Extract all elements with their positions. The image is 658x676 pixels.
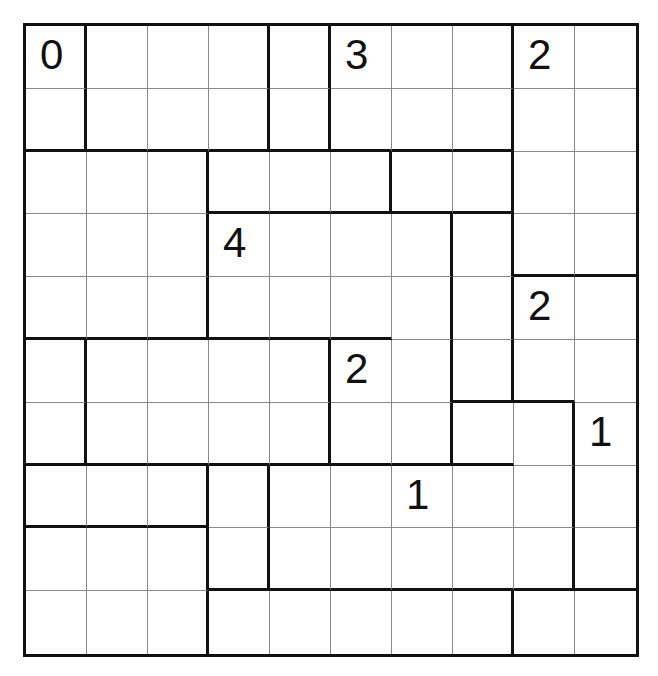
grid-cell[interactable] [270, 89, 331, 152]
grid-cell[interactable] [26, 403, 87, 466]
grid-cell[interactable]: 0 [26, 26, 87, 89]
grid-cell[interactable] [575, 26, 636, 89]
grid-cell[interactable] [514, 152, 575, 215]
grid-cell[interactable]: 1 [575, 403, 636, 466]
grid-cell[interactable] [148, 214, 209, 277]
grid-cell[interactable] [26, 528, 87, 591]
grid-cell[interactable] [331, 591, 392, 654]
grid-cell[interactable] [331, 466, 392, 529]
grid-cell[interactable] [575, 152, 636, 215]
grid-cell[interactable]: 3 [331, 26, 392, 89]
grid-cell[interactable] [87, 152, 148, 215]
grid-cell[interactable] [209, 152, 270, 215]
grid-cell[interactable] [270, 340, 331, 403]
grid-cell[interactable] [270, 214, 331, 277]
grid-cell[interactable] [331, 403, 392, 466]
grid-cell[interactable]: 2 [331, 340, 392, 403]
grid-cell[interactable] [26, 466, 87, 529]
grid-cell[interactable] [148, 277, 209, 340]
grid-cell[interactable] [453, 528, 514, 591]
grid-cell[interactable] [270, 152, 331, 215]
grid-cell[interactable] [392, 591, 453, 654]
grid-cell[interactable] [453, 26, 514, 89]
grid-cell[interactable] [514, 89, 575, 152]
grid-cell[interactable] [453, 591, 514, 654]
grid-cell[interactable] [453, 214, 514, 277]
grid-cell[interactable] [575, 89, 636, 152]
grid-cell[interactable] [331, 152, 392, 215]
grid-cell[interactable] [514, 214, 575, 277]
grid-cell[interactable] [453, 277, 514, 340]
grid-cell[interactable] [331, 528, 392, 591]
grid-cell[interactable] [392, 26, 453, 89]
grid-cell[interactable] [87, 528, 148, 591]
grid-cell[interactable] [87, 89, 148, 152]
grid-cell[interactable] [148, 152, 209, 215]
grid-cell[interactable] [148, 89, 209, 152]
grid-cell[interactable] [514, 528, 575, 591]
grid-cell[interactable] [209, 403, 270, 466]
grid-cell[interactable] [209, 591, 270, 654]
grid-cell[interactable] [209, 89, 270, 152]
grid-cell[interactable] [209, 26, 270, 89]
grid-cell[interactable] [87, 403, 148, 466]
grid-cell[interactable] [392, 152, 453, 215]
grid-cell[interactable] [270, 277, 331, 340]
grid-cell[interactable] [209, 466, 270, 529]
grid-cell[interactable] [392, 340, 453, 403]
grid-cell[interactable] [575, 214, 636, 277]
grid-cell[interactable] [392, 528, 453, 591]
grid-cell[interactable] [148, 591, 209, 654]
grid-cell[interactable] [453, 403, 514, 466]
grid-cell[interactable]: 1 [392, 466, 453, 529]
grid-cell[interactable] [575, 466, 636, 529]
grid-cell[interactable] [87, 466, 148, 529]
grid-cell[interactable] [270, 403, 331, 466]
grid-cell[interactable] [87, 26, 148, 89]
grid-cell[interactable] [26, 340, 87, 403]
grid-cell[interactable] [270, 591, 331, 654]
grid-cell[interactable] [148, 26, 209, 89]
grid-cell[interactable] [453, 340, 514, 403]
grid-cell[interactable] [26, 89, 87, 152]
grid-cell[interactable] [87, 340, 148, 403]
grid-cell[interactable]: 2 [514, 277, 575, 340]
grid-cell[interactable] [331, 214, 392, 277]
grid-cell[interactable] [575, 528, 636, 591]
grid-cell[interactable]: 4 [209, 214, 270, 277]
grid-cell[interactable] [392, 214, 453, 277]
grid-cell[interactable] [392, 89, 453, 152]
grid-cell[interactable] [514, 403, 575, 466]
grid-cell[interactable] [209, 277, 270, 340]
grid-cell[interactable] [26, 152, 87, 215]
grid-cell[interactable] [331, 89, 392, 152]
grid-cell[interactable] [514, 466, 575, 529]
grid-cell[interactable] [331, 277, 392, 340]
grid-cell[interactable] [148, 340, 209, 403]
grid-cell[interactable]: 2 [514, 26, 575, 89]
grid-cell[interactable] [209, 340, 270, 403]
grid-cell[interactable] [453, 152, 514, 215]
grid-cell[interactable] [392, 277, 453, 340]
grid-cell[interactable] [514, 591, 575, 654]
grid-cell[interactable] [148, 466, 209, 529]
grid-cell[interactable] [148, 528, 209, 591]
grid-cell[interactable] [575, 277, 636, 340]
grid-cell[interactable] [575, 591, 636, 654]
grid-cell[interactable] [87, 591, 148, 654]
grid-cell[interactable] [148, 403, 209, 466]
grid-cell[interactable] [26, 591, 87, 654]
grid-cell[interactable] [270, 466, 331, 529]
grid-cell[interactable] [209, 528, 270, 591]
grid-cell[interactable] [453, 89, 514, 152]
grid-cell[interactable] [575, 340, 636, 403]
grid-cell[interactable] [26, 214, 87, 277]
grid-cell[interactable] [87, 277, 148, 340]
grid-cell[interactable] [392, 403, 453, 466]
grid-cell[interactable] [270, 528, 331, 591]
grid-cell[interactable] [87, 214, 148, 277]
grid-cell[interactable] [26, 277, 87, 340]
grid-cell[interactable] [514, 340, 575, 403]
grid-cell[interactable] [453, 466, 514, 529]
grid-cell[interactable] [270, 26, 331, 89]
